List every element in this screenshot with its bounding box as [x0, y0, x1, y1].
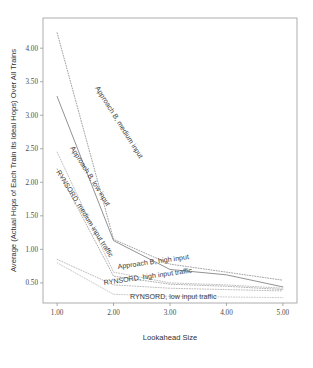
x-tick-label: 4.00	[220, 309, 233, 317]
x-tick-label: 3.00	[164, 309, 177, 317]
chart-figure: 0.501.001.502.002.503.003.504.00 1.002.0…	[0, 0, 313, 368]
x-tick-label: 2.00	[107, 309, 120, 317]
x-tick-label: 5.00	[277, 309, 290, 317]
y-tick-label: 2.00	[25, 179, 38, 187]
line-chart: 0.501.001.502.002.503.003.504.00 1.002.0…	[0, 0, 313, 368]
y-tick-label: 2.50	[25, 145, 38, 153]
y-tick-label: 3.50	[25, 78, 38, 86]
y-tick-label: 1.00	[25, 246, 38, 254]
x-axis-title: Lookahead Size	[143, 333, 197, 342]
y-tick-label: 4.00	[25, 45, 38, 53]
series-label-5: RYNSORD, low input traffic	[130, 293, 217, 301]
y-tick-label: 0.50	[25, 279, 38, 287]
y-axis-title: Average (Actual Hops of Each Train Its I…	[9, 49, 18, 272]
y-tick-label: 1.50	[25, 212, 38, 220]
x-tick-label: 1.00	[51, 309, 64, 317]
y-tick-label: 3.00	[25, 112, 38, 120]
chart-background	[0, 0, 313, 368]
